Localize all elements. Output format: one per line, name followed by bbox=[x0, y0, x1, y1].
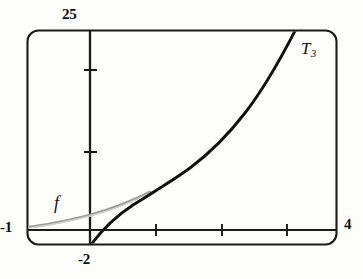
curve-t3-label: T3 bbox=[301, 39, 316, 59]
y-max-label: 25 bbox=[62, 6, 77, 23]
x-min-label: -2 bbox=[78, 251, 90, 268]
viewport-frame bbox=[28, 31, 337, 245]
figure-container: 25 -1 -2 4 f T3 bbox=[0, 0, 363, 279]
y-min-label: -1 bbox=[0, 219, 12, 236]
curve-t3-label-subscript: 3 bbox=[311, 47, 317, 59]
x-max-label: 4 bbox=[344, 216, 351, 233]
curve-f-label: f bbox=[54, 193, 59, 214]
curve-t3-label-base: T bbox=[301, 39, 310, 58]
